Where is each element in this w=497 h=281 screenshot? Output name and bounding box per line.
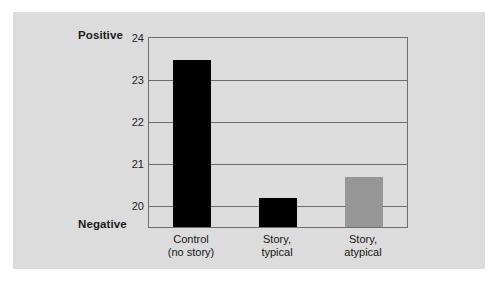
x-category-label-line: Story, xyxy=(227,233,327,246)
y-tick-label: 22 xyxy=(132,117,144,128)
bar xyxy=(259,198,297,227)
x-category-label-line: (no story) xyxy=(141,246,241,259)
chart-figure: Positive Negative 2423222120 Control(no … xyxy=(0,0,497,281)
x-category-label-line: atypical xyxy=(313,246,413,259)
y-tick-label: 24 xyxy=(132,33,144,44)
y-tick-label: 23 xyxy=(132,75,144,86)
bar xyxy=(173,60,211,227)
y-tick-label: 20 xyxy=(132,201,144,212)
x-category-label-line: typical xyxy=(227,246,327,259)
x-category-label: Control(no story) xyxy=(141,233,241,258)
x-category-label-line: Control xyxy=(141,233,241,246)
x-category-label: Story,atypical xyxy=(313,233,413,258)
bar xyxy=(345,177,383,227)
axis-endpoint-label-negative: Negative xyxy=(78,218,127,230)
y-tick-label: 21 xyxy=(132,159,144,170)
x-category-label-line: Story, xyxy=(313,233,413,246)
x-category-label: Story,typical xyxy=(227,233,327,258)
plot-area: 2423222120 xyxy=(148,37,408,228)
axis-endpoint-label-positive: Positive xyxy=(78,29,123,41)
